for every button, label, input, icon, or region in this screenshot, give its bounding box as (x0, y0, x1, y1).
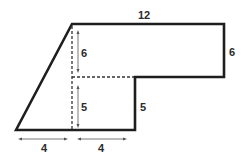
label-inner-upper-height: 6 (81, 47, 87, 59)
arrow-upper-6 (77, 30, 80, 73)
label-step-height: 5 (140, 101, 146, 113)
arrow-bottom-right-4 (77, 138, 127, 141)
label-bottom-left-width: 4 (41, 142, 48, 154)
label-inner-lower-height: 5 (81, 101, 87, 113)
arrow-lower-5 (77, 85, 80, 128)
label-right-height: 6 (229, 46, 235, 58)
arrow-bottom-left-4 (18, 138, 68, 141)
label-top-width: 12 (138, 9, 150, 21)
label-bottom-right-width: 4 (98, 142, 105, 154)
composite-shape-diagram: 12 6 6 5 5 4 4 (0, 0, 245, 156)
